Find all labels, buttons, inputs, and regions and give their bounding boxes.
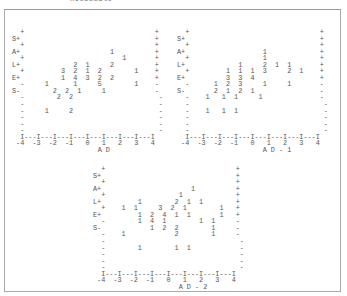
ascii-plot-ad: + + S+ + + + A+ 1 + + 1 + L+ 2 [12, 29, 163, 153]
plot-body: + + S+ + + + A+ 1 + + 1 + L+ 1 [93, 166, 244, 290]
plot-body: + + S+ + + + A+ 1 + + 1 + L+ 2 [12, 29, 163, 153]
plot-body: + + S+ + + + A+ 1 + + 1 + L+ 1 [177, 29, 328, 153]
ascii-plot-ad-lag1: + + S+ + + + A+ 1 + + 1 + L+ 1 [177, 29, 328, 153]
cut-off-title: Residuals [70, 0, 112, 3]
ascii-plot-ad-lag2: + + S+ + + + A+ 1 + + 1 + L+ 1 [93, 166, 244, 290]
